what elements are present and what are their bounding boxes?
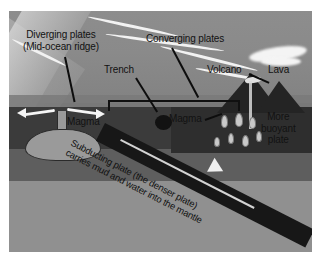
label-magma-left: Magma [67,116,100,128]
label-magma-right: Magma [169,113,202,125]
label-volcano: Volcano [207,64,242,76]
label-buoyant-line3: plate [261,134,296,146]
label-diverging-line2: (Mid-ocean ridge) [23,41,99,53]
label-diverging-plates: Diverging plates (Mid-ocean ridge) [23,29,99,52]
label-trench: Trench [104,64,134,76]
label-converging-plates: Converging plates [146,33,224,45]
convergence-bracket [108,100,240,111]
tectonics-diagram-figure: Diverging plates (Mid-ocean ridge) Conve… [0,0,321,260]
label-lava: Lava [268,64,289,76]
diagram-canvas: Diverging plates (Mid-ocean ridge) Conve… [9,11,312,252]
label-diverging-line1: Diverging plates [23,29,99,41]
magma-plume [214,137,220,147]
magma-plume [242,135,249,147]
label-buoyant-line2: buoyant [261,123,296,135]
volcano-cone-secondary [257,81,305,113]
magma-plume [249,117,256,129]
label-buoyant-line1: More [261,111,296,123]
magma-plume [235,113,243,127]
magma-plume [228,133,234,144]
label-more-buoyant-plate: More buoyant plate [261,111,296,146]
arrow-left-icon [17,108,26,118]
magma-plume [221,115,228,128]
